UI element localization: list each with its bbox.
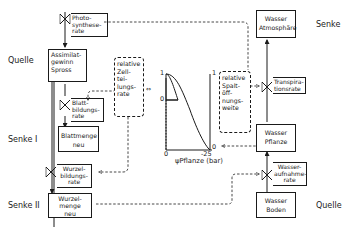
text-line: Wasser <box>259 196 293 205</box>
zellteilungsrate-box: relative Zell- tei- lungs- rate <box>114 57 144 117</box>
text-line: Boden <box>259 205 293 214</box>
text-line: Atmosphäre <box>259 23 293 32</box>
blattmenge-box: Blattmenge neu <box>58 126 99 152</box>
text-line: Zell- <box>117 68 141 76</box>
double-arrow-icon: ⇔ <box>146 85 151 92</box>
text-line: tionsrate <box>274 86 304 93</box>
text-line: tei- <box>117 75 141 83</box>
text-line: relative <box>117 60 141 68</box>
text-line: Pflanze <box>259 137 293 146</box>
text-line: menge <box>51 202 89 209</box>
text-line: rate <box>72 113 102 120</box>
text-line: Blattmenge <box>61 131 96 140</box>
y-right-tick-0: 0 <box>212 144 216 151</box>
text-line: lungs- <box>117 83 141 91</box>
text-line: Wasser <box>259 14 293 23</box>
wurzelbildungsrate: Wurzel- bildungs- rate <box>57 164 92 188</box>
y-right-tick-1: 1 <box>212 70 216 77</box>
transpirationsrate: Transpira- tionsrate <box>273 77 306 94</box>
text-line: Wurzel- <box>51 195 89 202</box>
wasser-boden-box: Wasser Boden <box>256 192 296 218</box>
x-tick-0: 0 <box>164 151 168 158</box>
text-line: gewinn <box>51 58 84 65</box>
wasser-pflanze-box: Wasser Pflanze <box>256 124 296 152</box>
text-line: Spalt- <box>222 82 248 90</box>
photosynthese-rate: Photo- synthese- rate <box>71 13 108 37</box>
text-line: rate <box>117 90 141 98</box>
text-line: rate <box>72 28 106 35</box>
label-senke-1: Senke I <box>8 135 37 144</box>
text-line: relative <box>222 74 248 82</box>
y-left-tick-1: 1 <box>160 70 164 77</box>
assimilatgewinn-box: Assimilat- gewinn Spross <box>48 49 87 82</box>
wurzelmenge-box: Wurzel- menge neu <box>48 193 92 218</box>
text-line: öff- <box>222 89 248 97</box>
text-line: neu <box>51 210 89 217</box>
text-line: rate <box>58 179 90 186</box>
text-line: nungs- <box>222 97 248 105</box>
text-line: weite <box>222 104 248 112</box>
x-axis-label: ψPflanze (bar) <box>175 158 223 165</box>
y-left-tick-0: 0 <box>160 96 164 103</box>
text-line: Wasser <box>259 128 293 137</box>
text-line: Spross <box>51 66 84 73</box>
text-line: rate <box>274 177 305 184</box>
text-line: neu <box>61 140 96 149</box>
label-quelle-right: Quelle <box>316 201 342 210</box>
label-senke-2: Senke II <box>8 201 40 210</box>
text-line: Assimilat- <box>51 51 84 58</box>
wasser-atmosphaere-box: Wasser Atmosphäre <box>256 10 296 38</box>
spaltoeffnungsweite-box: relative Spalt- öff- nungs- weite <box>219 71 251 133</box>
label-senke-right: Senke <box>316 20 340 29</box>
wasseraufnahmerate: Wasser- aufnahme- rate <box>273 162 307 186</box>
blattbildungsrate: Blatt- bildungs- rate <box>71 98 104 122</box>
label-quelle-left: Quelle <box>8 56 34 65</box>
